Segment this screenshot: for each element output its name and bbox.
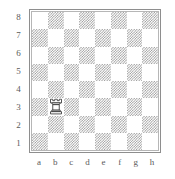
rank-label-4: 4 (10, 81, 27, 99)
square-e1[interactable] (95, 133, 111, 150)
square-h5[interactable] (142, 64, 158, 81)
square-c7[interactable] (64, 29, 80, 46)
square-f6[interactable] (111, 47, 127, 64)
square-e3[interactable] (95, 98, 111, 115)
rank-label-1: 1 (10, 134, 27, 152)
square-c2[interactable] (64, 116, 80, 133)
square-h8[interactable] (142, 12, 158, 29)
square-f4[interactable] (111, 81, 127, 98)
square-h6[interactable] (142, 47, 158, 64)
square-h3[interactable] (142, 98, 158, 115)
square-h4[interactable] (142, 81, 158, 98)
square-g2[interactable] (127, 116, 143, 133)
square-a7[interactable] (32, 29, 48, 46)
square-h1[interactable] (142, 133, 158, 150)
square-g3[interactable] (127, 98, 143, 115)
square-b2[interactable] (48, 116, 64, 133)
square-d5[interactable] (79, 64, 95, 81)
square-a4[interactable] (32, 81, 48, 98)
square-f3[interactable] (111, 98, 127, 115)
square-b3[interactable] (48, 98, 64, 115)
chess-board-inner-frame (31, 11, 159, 151)
square-g7[interactable] (127, 29, 143, 46)
file-label-a: a (31, 155, 47, 169)
square-b1[interactable] (48, 133, 64, 150)
file-label-c: c (63, 155, 79, 169)
file-label-d: d (79, 155, 95, 169)
square-c8[interactable] (64, 12, 80, 29)
square-b4[interactable] (48, 81, 64, 98)
rank-label-3: 3 (10, 98, 27, 116)
square-g6[interactable] (127, 47, 143, 64)
rank-label-6: 6 (10, 45, 27, 63)
square-c1[interactable] (64, 133, 80, 150)
rank-label-5: 5 (10, 63, 27, 81)
square-a8[interactable] (32, 12, 48, 29)
square-a1[interactable] (32, 133, 48, 150)
square-b6[interactable] (48, 47, 64, 64)
square-d1[interactable] (79, 133, 95, 150)
square-b8[interactable] (48, 12, 64, 29)
square-d3[interactable] (79, 98, 95, 115)
square-c6[interactable] (64, 47, 80, 64)
square-d8[interactable] (79, 12, 95, 29)
square-f2[interactable] (111, 116, 127, 133)
square-d6[interactable] (79, 47, 95, 64)
square-c3[interactable] (64, 98, 80, 115)
square-e4[interactable] (95, 81, 111, 98)
square-e2[interactable] (95, 116, 111, 133)
square-a3[interactable] (32, 98, 48, 115)
square-c5[interactable] (64, 64, 80, 81)
square-e6[interactable] (95, 47, 111, 64)
square-f8[interactable] (111, 12, 127, 29)
rank-label-7: 7 (10, 27, 27, 45)
square-g1[interactable] (127, 133, 143, 150)
file-label-row: abcdefgh (31, 155, 160, 169)
square-h7[interactable] (142, 29, 158, 46)
file-label-g: g (128, 155, 144, 169)
square-g8[interactable] (127, 12, 143, 29)
square-b5[interactable] (48, 64, 64, 81)
square-d2[interactable] (79, 116, 95, 133)
square-f1[interactable] (111, 133, 127, 150)
square-c4[interactable] (64, 81, 80, 98)
rank-label-2: 2 (10, 116, 27, 134)
square-h2[interactable] (142, 116, 158, 133)
file-label-h: h (144, 155, 160, 169)
square-g4[interactable] (127, 81, 143, 98)
square-d4[interactable] (79, 81, 95, 98)
square-f5[interactable] (111, 64, 127, 81)
square-a2[interactable] (32, 116, 48, 133)
file-label-e: e (96, 155, 112, 169)
square-d7[interactable] (79, 29, 95, 46)
rank-label-8: 8 (10, 9, 27, 27)
chess-diagram: 87654321 abcdefgh (0, 0, 175, 179)
rank-label-column: 87654321 (10, 9, 27, 152)
file-label-b: b (47, 155, 63, 169)
square-f7[interactable] (111, 29, 127, 46)
white-rook-icon[interactable] (48, 98, 63, 115)
square-b7[interactable] (48, 29, 64, 46)
chess-board-grid (32, 12, 158, 150)
square-e8[interactable] (95, 12, 111, 29)
square-e5[interactable] (95, 64, 111, 81)
file-label-f: f (112, 155, 128, 169)
chess-board-frame (29, 9, 161, 153)
square-e7[interactable] (95, 29, 111, 46)
square-g5[interactable] (127, 64, 143, 81)
square-a5[interactable] (32, 64, 48, 81)
square-a6[interactable] (32, 47, 48, 64)
